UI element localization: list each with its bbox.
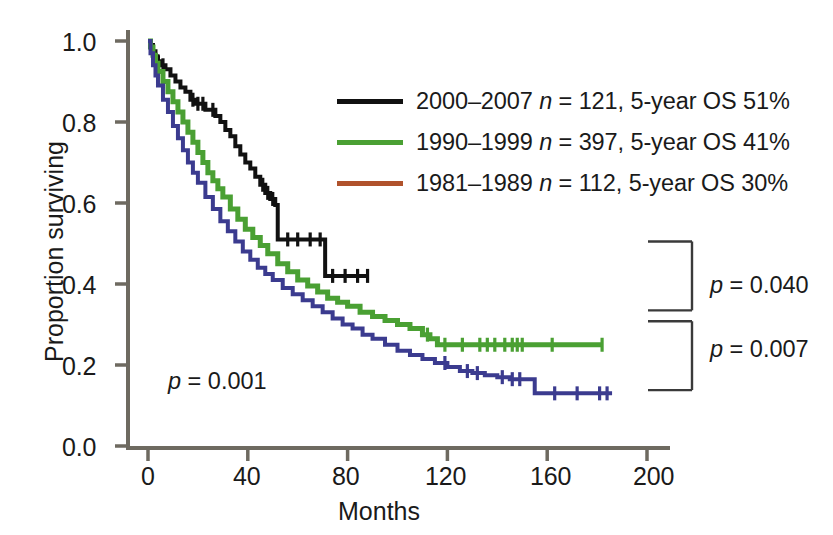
legend-period-2000-2007: 2000–2007 [416,88,533,114]
bracket-p-value-upper: p = 0.040 [710,272,809,299]
legend-n-value-2: = 112, [552,170,629,196]
legend-period-1981-1989: 1981–1989 [416,170,533,196]
x-tick-label-200: 200 [633,462,674,491]
x-tick-label-160: 160 [530,462,571,491]
overall-p-value: p = 0.001 [168,368,267,395]
legend-n-value-0: = 121, [552,88,630,114]
y-tick-label-0-8: 0.8 [62,109,96,138]
legend-entry-1981-1989[interactable]: 1981–1989 n = 112, 5-year OS 30% [337,170,788,197]
y-tick-label-0-0: 0.0 [62,433,96,462]
legend-os-1: 5-year OS 41% [630,129,789,155]
legend-swatch-1990-1999 [337,140,403,145]
comparison-bracket-upper [648,241,692,310]
y-axis-title: Proportion surviving [40,141,69,362]
legend-n-italic-1: n [539,129,552,155]
y-tick-label-1-0: 1.0 [62,28,96,57]
p-italic-lower: p [710,336,723,362]
legend-swatch-2000-2007 [337,99,403,104]
legend-os-2: 5-year OS 30% [629,170,788,196]
x-tick-label-120: 120 [425,462,466,491]
bracket-layer [648,241,692,390]
legend-entry-2000-2007[interactable]: 2000–2007 n = 121, 5-year OS 51% [337,88,790,115]
p-overall-rest: = 0.001 [181,368,267,394]
plot-canvas [0,0,833,535]
legend-entry-1990-1999[interactable]: 1990–1999 n = 397, 5-year OS 41% [337,129,790,156]
legend-label-2000-2007: 2000–2007 n = 121, 5-year OS 51% [416,88,790,115]
comparison-bracket-lower [648,321,692,390]
legend-label-1990-1999: 1990–1999 n = 397, 5-year OS 41% [416,129,790,156]
p-lower-rest: = 0.007 [723,336,809,362]
p-italic-overall: p [168,368,181,394]
legend-swatch-1981-1989 [337,181,403,186]
survival-chart-figure: 1.0 0.8 0.6 0.4 0.2 0.0 0 40 80 120 160 … [0,0,833,535]
x-axis-title: Months [338,497,420,526]
x-tick-label-80: 80 [332,462,359,491]
x-tick-label-0: 0 [141,462,155,491]
legend-n-value-1: = 397, [552,129,630,155]
p-italic-upper: p [710,272,723,298]
legend-n-italic-0: n [539,88,552,114]
bracket-p-value-lower: p = 0.007 [710,336,809,363]
legend-period-1990-1999: 1990–1999 [416,129,533,155]
legend-os-0: 5-year OS 51% [630,88,789,114]
x-tick-label-40: 40 [233,462,260,491]
p-upper-rest: = 0.040 [723,272,809,298]
legend-n-italic-2: n [539,170,552,196]
legend-label-1981-1989: 1981–1989 n = 112, 5-year OS 30% [416,170,788,197]
